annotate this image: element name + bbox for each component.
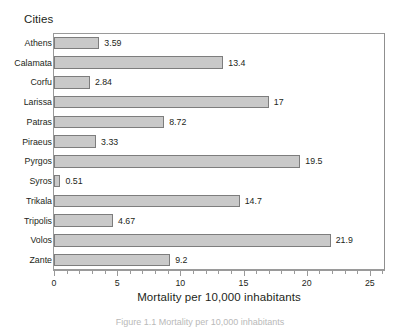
x-tick-minor — [332, 270, 333, 274]
x-tick-minor — [218, 270, 219, 274]
x-tick-major — [370, 270, 371, 276]
category-label-larissa: Larissa — [0, 97, 52, 107]
bar-value-label-larissa: 17 — [274, 97, 284, 107]
bar-value-label-pyrgos: 19.5 — [305, 156, 322, 166]
x-tick-minor — [231, 270, 232, 274]
bar-row: Tripolis4.67 — [0, 211, 400, 231]
x-tick-major — [180, 270, 181, 276]
bar-zante[interactable] — [54, 254, 170, 267]
bar-value-label-piraeus: 3.33 — [101, 137, 118, 147]
bar-value-label-patras: 8.72 — [169, 117, 186, 127]
bar-row: Calamata13.4 — [0, 53, 400, 73]
bar-corfu[interactable] — [54, 76, 90, 89]
bar-patras[interactable] — [54, 116, 164, 129]
x-tick-major — [307, 270, 308, 276]
bar-value-label-tripolis: 4.67 — [118, 216, 135, 226]
bar-row: Patras8.72 — [0, 112, 400, 132]
x-tick-minor — [256, 270, 257, 274]
bar-trikala[interactable] — [54, 195, 240, 208]
category-label-tripolis: Tripolis — [0, 216, 52, 226]
bar-tripolis[interactable] — [54, 214, 113, 227]
x-tick-minor — [67, 270, 68, 274]
x-tick-major — [244, 270, 245, 276]
x-tick-minor — [382, 270, 383, 274]
bar-larissa[interactable] — [54, 96, 269, 109]
category-label-athens: Athens — [0, 38, 52, 48]
bar-row: Corfu2.84 — [0, 73, 400, 93]
bar-calamata[interactable] — [54, 56, 223, 69]
x-tick-label: 5 — [115, 278, 120, 288]
bar-value-label-athens: 3.59 — [104, 38, 121, 48]
x-tick-minor — [130, 270, 131, 274]
category-label-patras: Patras — [0, 117, 52, 127]
x-tick-minor — [345, 270, 346, 274]
y-axis-group-title: Cities — [24, 13, 53, 25]
bar-pyrgos[interactable] — [54, 155, 300, 168]
category-label-syros: Syros — [0, 176, 52, 186]
category-label-pyrgos: Pyrgos — [0, 156, 52, 166]
x-tick-minor — [319, 270, 320, 274]
category-label-volos: Volos — [0, 235, 52, 245]
bar-value-label-trikala: 14.7 — [245, 196, 262, 206]
bar-row: Athens3.59 — [0, 33, 400, 53]
x-tick-minor — [92, 270, 93, 274]
bar-row: Pyrgos19.5 — [0, 152, 400, 172]
bar-row: Zante9.2 — [0, 250, 400, 270]
x-tick-minor — [206, 270, 207, 274]
category-label-piraeus: Piraeus — [0, 137, 52, 147]
x-tick-minor — [142, 270, 143, 274]
bar-rows-container: Athens3.59Calamata13.4Corfu2.84Larissa17… — [0, 33, 400, 270]
bar-value-label-syros: 0.51 — [65, 176, 82, 186]
x-tick-label: 0 — [52, 278, 57, 288]
bar-piraeus[interactable] — [54, 135, 96, 148]
x-tick-minor — [294, 270, 295, 274]
bar-athens[interactable] — [54, 37, 99, 50]
category-label-zante: Zante — [0, 255, 52, 265]
x-tick-label: 10 — [175, 278, 185, 288]
x-tick-minor — [168, 270, 169, 274]
x-tick-minor — [357, 270, 358, 274]
x-tick-major — [117, 270, 118, 276]
x-tick-minor — [193, 270, 194, 274]
bar-value-label-volos: 21.9 — [336, 235, 353, 245]
bar-row: Volos21.9 — [0, 231, 400, 251]
category-label-corfu: Corfu — [0, 77, 52, 87]
bar-row: Trikala14.7 — [0, 191, 400, 211]
category-label-calamata: Calamata — [0, 58, 52, 68]
bar-row: Piraeus3.33 — [0, 132, 400, 152]
x-tick-minor — [281, 270, 282, 274]
bar-value-label-calamata: 13.4 — [228, 58, 245, 68]
bar-volos[interactable] — [54, 234, 331, 247]
x-tick-minor — [155, 270, 156, 274]
x-axis-title: Mortality per 10,000 inhabitants — [53, 291, 385, 303]
x-tick-minor — [105, 270, 106, 274]
bar-syros[interactable] — [54, 175, 60, 188]
figure-caption: Figure 1.1 Mortality per 10,000 inhabita… — [0, 317, 400, 328]
x-tick-minor — [79, 270, 80, 274]
x-tick-label: 20 — [302, 278, 312, 288]
bar-value-label-zante: 9.2 — [175, 255, 187, 265]
x-tick-label: 15 — [239, 278, 249, 288]
chart-figure: Cities Athens3.59Calamata13.4Corfu2.84La… — [0, 0, 400, 328]
bar-row: Larissa17 — [0, 92, 400, 112]
x-tick-label: 25 — [365, 278, 375, 288]
bar-row: Syros0.51 — [0, 171, 400, 191]
category-label-trikala: Trikala — [0, 196, 52, 206]
x-tick-minor — [269, 270, 270, 274]
bar-value-label-corfu: 2.84 — [95, 77, 112, 87]
x-tick-major — [54, 270, 55, 276]
